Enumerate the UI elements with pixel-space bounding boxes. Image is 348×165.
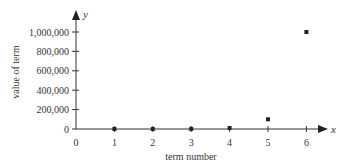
data-point-marker xyxy=(304,30,308,34)
data-points xyxy=(112,30,308,131)
x-axis-label: term number xyxy=(165,151,217,162)
y-axis-arrow-icon xyxy=(72,10,80,20)
data-point-marker xyxy=(228,126,232,130)
data-point-marker xyxy=(189,127,193,131)
x-tick-label: 4 xyxy=(227,137,232,148)
y-tick-label: 400,000 xyxy=(37,85,70,96)
y-ticks: 0200,000400,000600,000800,0001,000,000 xyxy=(29,27,79,135)
x-tick-label: 5 xyxy=(266,137,271,148)
data-point-marker xyxy=(151,127,155,131)
x-axis-arrow-icon xyxy=(318,125,328,133)
x-tick-label: 0 xyxy=(74,137,79,148)
y-tick-label: 0 xyxy=(64,124,69,135)
x-tick-label: 6 xyxy=(304,137,309,148)
x-tick-label: 3 xyxy=(189,137,194,148)
y-tick-label: 1,000,000 xyxy=(29,27,69,38)
y-axis-label: value of term xyxy=(10,45,21,99)
x-tick-label: 1 xyxy=(112,137,117,148)
x-axis-letter: x xyxy=(330,123,336,135)
scatter-chart: x y 0123456 0200,000400,000600,000800,00… xyxy=(0,0,348,165)
x-tick-label: 2 xyxy=(150,137,155,148)
data-point-marker xyxy=(266,117,270,121)
y-tick-label: 600,000 xyxy=(37,65,70,76)
y-tick-label: 800,000 xyxy=(37,46,70,57)
y-tick-label: 200,000 xyxy=(37,104,70,115)
data-point-marker xyxy=(112,127,116,131)
y-axis-letter: y xyxy=(82,8,88,20)
